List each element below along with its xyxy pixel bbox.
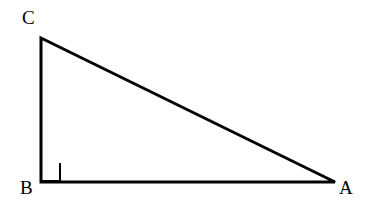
figure-canvas: C B A — [0, 0, 375, 222]
right-triangle-figure — [0, 0, 375, 222]
vertex-label-b: B — [20, 178, 33, 197]
vertex-label-a: A — [339, 178, 353, 197]
vertex-label-c: C — [22, 8, 35, 27]
right-angle-marker — [42, 163, 60, 181]
triangle-outline — [41, 38, 335, 182]
